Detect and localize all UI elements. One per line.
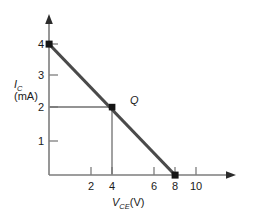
y-tick-label-3: 3 xyxy=(38,69,44,81)
x-tick-label-4: 4 xyxy=(109,180,115,192)
x-axis-arrow-icon xyxy=(226,171,236,179)
y-axis-tick-labels: 4 3 2 1 xyxy=(38,38,44,147)
q-point-marker xyxy=(109,104,116,111)
y-axis-label: IC (mA) xyxy=(14,78,38,102)
load-line-endpoint-marker-bottom xyxy=(172,172,179,179)
x-axis-tick-labels: 2 4 6 8 10 xyxy=(88,180,202,192)
x-tick-label-6: 6 xyxy=(151,180,157,192)
load-line-figure: 4 3 2 1 2 4 6 8 10 xyxy=(0,0,256,212)
axes-group xyxy=(45,14,236,179)
q-point-projections xyxy=(50,107,112,174)
y-axis-unit: (mA) xyxy=(14,90,38,102)
y-axis-ticks xyxy=(49,44,58,141)
q-point-label: Q xyxy=(130,94,139,106)
x-tick-label-10: 10 xyxy=(190,180,202,192)
x-tick-label-8: 8 xyxy=(172,180,178,192)
x-axis-label: VCE(V) xyxy=(112,196,144,211)
plot-canvas: 4 3 2 1 2 4 6 8 10 xyxy=(0,0,256,212)
y-axis-arrow-icon xyxy=(45,14,53,24)
x-axis-unit: (V) xyxy=(130,196,145,208)
y-tick-label-1: 1 xyxy=(38,135,44,147)
x-tick-label-2: 2 xyxy=(88,180,94,192)
y-tick-label-4: 4 xyxy=(38,38,44,50)
y-tick-label-2: 2 xyxy=(38,101,44,113)
x-axis-ticks xyxy=(91,167,196,175)
load-line-endpoint-marker-top xyxy=(46,41,53,48)
